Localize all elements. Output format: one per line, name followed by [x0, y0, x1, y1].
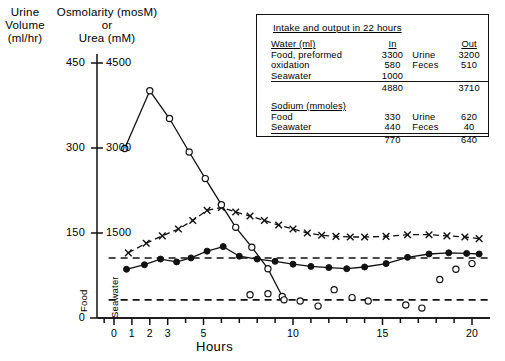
osmolarity-filled-circles-point	[124, 266, 130, 272]
row-in: 3300	[373, 50, 413, 61]
urine-volume-open-circles-scattered-point	[403, 302, 409, 308]
osmolarity-filled-circles-point	[158, 256, 164, 262]
urea-x-markers-point	[261, 217, 268, 224]
x-tick-label: 15	[371, 327, 395, 339]
urine-volume-open-circles-scattered-point	[281, 297, 287, 303]
urine-osmolarity-open-circles-point	[202, 176, 208, 182]
urine-volume-open-circles-scattered-point	[331, 287, 337, 293]
urine-volume-open-circles-scattered-point	[315, 303, 321, 309]
urine-osmolarity-open-circles-point	[218, 202, 224, 208]
osmolarity-filled-circles-point	[326, 265, 332, 271]
osmolarity-filled-circles-point	[236, 253, 242, 259]
inset-table-box: Intake and output in 22 hours Water (ml)…	[256, 14, 489, 137]
urine-volume-open-circles-scattered-point	[365, 298, 371, 304]
urea-x-markers-point	[125, 250, 132, 257]
row-out-label	[412, 71, 450, 82]
osmolarity-filled-circles-point	[220, 244, 226, 250]
food-annotation: Food	[78, 290, 89, 312]
osmolarity-filled-circles-point	[426, 251, 432, 257]
urea-x-markers-point	[275, 222, 282, 229]
row-out-label: Urine	[412, 50, 450, 61]
y-tick-label-outer: 300	[49, 141, 85, 153]
osmolarity-filled-circles-point	[188, 255, 194, 261]
table-row: Seawater 1000	[271, 71, 488, 82]
table-row: Food, preformed 3300 Urine 3200	[271, 50, 488, 61]
y-tick-label-outer: 150	[49, 226, 85, 238]
sodium-total-in: 770	[373, 133, 413, 145]
y-axis-inner-caption: Osmolarity (mosM) or Urea (mM)	[52, 6, 162, 45]
x-axis-title: Hours	[196, 339, 233, 354]
y-tick-label-inner: 1500	[106, 226, 146, 238]
row-out-label: Feces	[412, 122, 450, 133]
inset-water-header-row: Water (ml) In Out	[271, 39, 488, 50]
row-out: 3200	[450, 50, 488, 61]
row-out-label: Urine	[412, 112, 450, 123]
row-out: 510	[450, 60, 488, 71]
row-label: Seawater	[271, 71, 373, 82]
water-header: Water (ml)	[271, 39, 316, 49]
urine-volume-open-circles-scattered-point	[265, 291, 271, 297]
urine-volume-open-circles-scattered-point	[453, 266, 459, 272]
urine-osmolarity-open-circles-point	[186, 149, 192, 155]
row-label: Food	[271, 112, 373, 123]
osmolarity-filled-circles-point	[383, 261, 389, 267]
table-row: Seawater 440 Feces 40	[271, 122, 488, 133]
table-row: Food 330 Urine 620	[271, 112, 488, 123]
row-label: Food, preformed	[271, 50, 373, 61]
osmolarity-filled-circles-point	[290, 261, 296, 267]
row-label: oxidation	[271, 60, 373, 71]
y-tick-label-inner: 4500	[106, 56, 146, 68]
inset-sodium-header-row: Sodium (mmoles)	[271, 101, 488, 112]
x-tick-label: 3	[156, 327, 180, 339]
water-total-row: 4880 3710	[271, 81, 488, 94]
col-out-header: Out	[461, 39, 476, 49]
osmolarity-filled-circles-point	[405, 254, 411, 260]
urine-osmolarity-open-circles-point	[166, 115, 172, 121]
osmolarity-filled-circles-point	[204, 248, 210, 254]
osmolarity-filled-circles-point	[308, 263, 314, 269]
row-label: Seawater	[271, 122, 373, 133]
osmolarity-filled-circles-point	[446, 250, 452, 256]
urine-volume-open-circles-scattered-point	[247, 292, 253, 298]
row-in: 1000	[373, 71, 413, 82]
inset-table: Water (ml) In Out Food, preformed 3300 U…	[271, 39, 488, 145]
figure-root: Urine Volume (ml/hr) Osmolarity (mosM) o…	[0, 0, 505, 361]
urine-volume-open-circles-scattered-point	[437, 276, 443, 282]
row-in: 580	[373, 60, 413, 71]
osmolarity-filled-circles-point	[174, 259, 180, 265]
urine-volume-open-circles-scattered-point	[469, 261, 475, 267]
urea-x-markers-point	[159, 233, 166, 240]
osmolarity-filled-circles-point	[272, 258, 278, 264]
urine-osmolarity-open-circles-point	[249, 244, 255, 250]
urine-volume-open-circles-scattered-point	[349, 295, 355, 301]
col-in-header: In	[388, 39, 396, 49]
y-tick-label-outer: 0	[49, 311, 85, 323]
row-out-label: Feces	[412, 60, 450, 71]
seawater-annotation: Seawater	[109, 276, 120, 318]
x-tick-label: 10	[281, 327, 305, 339]
sodium-total-row: 770 640	[271, 133, 488, 146]
sodium-total-out: 640	[450, 133, 488, 145]
row-out: 40	[450, 122, 488, 133]
osmolarity-filled-circles-point	[362, 264, 368, 270]
sodium-header: Sodium (mmoles)	[271, 101, 346, 111]
table-row: oxidation 580 Feces 510	[271, 60, 488, 71]
row-in: 330	[373, 112, 413, 123]
osmolarity-filled-circles-point	[344, 266, 350, 272]
osmolarity-filled-circles-point	[464, 250, 470, 256]
urea-x-markers-point	[189, 217, 196, 224]
water-total-out: 3710	[450, 81, 488, 93]
osmolarity-filled-circles-point	[476, 251, 482, 257]
y-axis-outer-caption: Urine Volume (ml/hr)	[2, 6, 48, 45]
urea-x-markers-point	[143, 240, 150, 247]
x-tick-label: 20	[460, 327, 484, 339]
osmolarity-filled-circles-point	[141, 262, 147, 268]
urea-x-markers-point	[175, 226, 182, 233]
urine-osmolarity-open-circles-point	[265, 266, 271, 272]
urine-osmolarity-open-circles-point	[233, 224, 239, 230]
urine-volume-open-circles-scattered-point	[419, 305, 425, 311]
row-in: 440	[373, 122, 413, 133]
water-total-in: 4880	[373, 81, 413, 93]
row-out	[450, 71, 488, 82]
y-tick-label-inner: 3000	[106, 141, 146, 153]
